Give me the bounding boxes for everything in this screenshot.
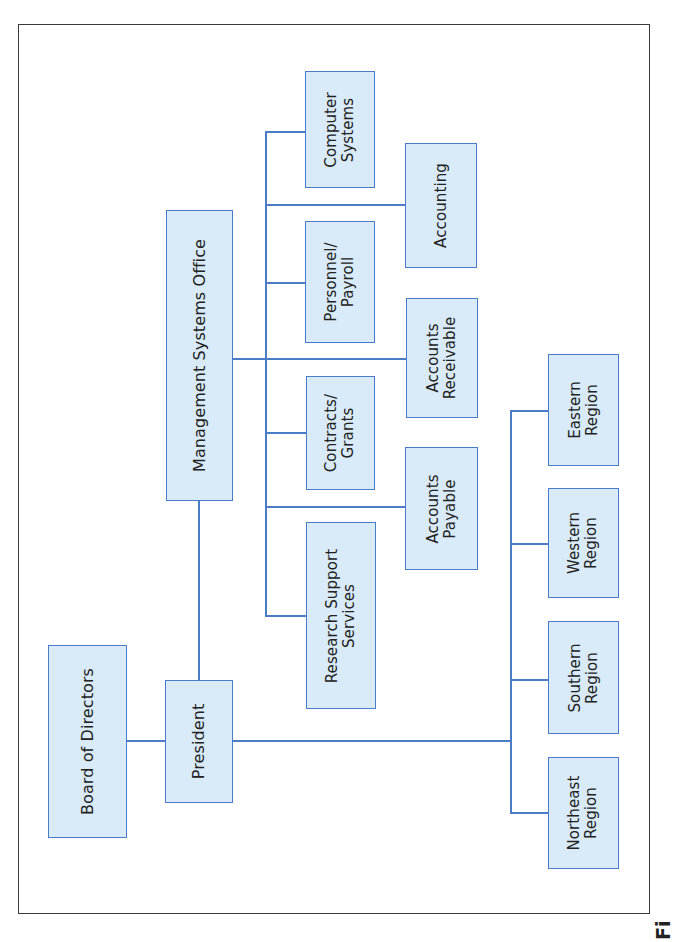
- node-label: Research Support Services: [324, 548, 358, 682]
- node-label: Management Systems Office: [191, 239, 208, 472]
- node-eastern-region: Eastern Region: [548, 354, 619, 466]
- node-board-of-directors: Board of Directors: [48, 645, 127, 838]
- node-label: Contracts/ Grants: [324, 394, 358, 472]
- node-western-region: Western Region: [548, 488, 619, 598]
- node-northeast-region: Northeast Region: [548, 757, 619, 869]
- node-label: Eastern Region: [567, 381, 601, 439]
- node-personnel-payroll: Personnel/ Payroll: [305, 221, 375, 343]
- node-accounts-receivable: Accounts Receivable: [406, 298, 478, 418]
- node-label: Accounting: [433, 163, 450, 248]
- node-management-systems-office: Management Systems Office: [166, 210, 233, 501]
- node-label: Computer Systems: [323, 92, 357, 167]
- node-computer-systems: Computer Systems: [305, 71, 375, 188]
- node-label: Personnel/ Payroll: [323, 242, 357, 321]
- node-label: Western Region: [567, 512, 601, 574]
- node-president: President: [165, 680, 233, 803]
- node-contracts-grants: Contracts/ Grants: [306, 376, 375, 490]
- figure-caption: Fi: [652, 921, 674, 941]
- node-accounts-payable: Accounts Payable: [405, 447, 478, 570]
- node-southern-region: Southern Region: [548, 621, 619, 734]
- node-label: Board of Directors: [79, 668, 96, 815]
- node-label: Southern Region: [567, 643, 601, 712]
- node-label: Northeast Region: [567, 776, 601, 851]
- node-accounting: Accounting: [405, 143, 477, 268]
- node-label: President: [191, 704, 208, 780]
- node-label: Accounts Receivable: [425, 317, 459, 400]
- node-label: Accounts Payable: [425, 474, 459, 543]
- node-research-support-services: Research Support Services: [306, 522, 376, 709]
